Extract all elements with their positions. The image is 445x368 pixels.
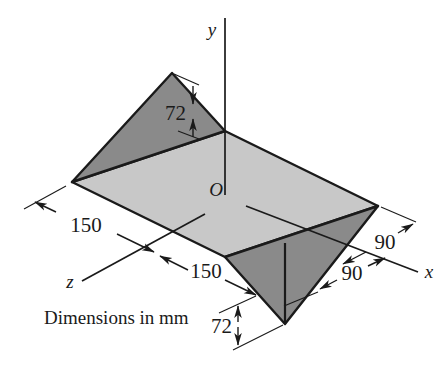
dim-label-90-lower: 90 (342, 261, 363, 285)
dim-90-upper-ext (381, 207, 416, 222)
dim-90-lower-line-b (368, 258, 385, 266)
dim-label-90-upper: 90 (375, 230, 396, 254)
dim-label-72-bottom: 72 (211, 314, 232, 338)
engineering-figure: 72 150 150 90 90 72 y x (0, 0, 445, 368)
dim-150-left-ext (24, 186, 66, 209)
dim-150-left-line-a (35, 202, 56, 212)
origin-label: O (209, 179, 223, 200)
dim-label-72-top: 72 (165, 101, 186, 125)
axis-label-z: z (65, 271, 74, 292)
dim-90-lower-line-a (320, 280, 337, 289)
dim-label-150-right: 150 (190, 259, 222, 283)
dim-label-150-left: 150 (70, 213, 102, 237)
dim-90-upper-line-a (398, 224, 413, 233)
axis-label-y: y (206, 19, 217, 40)
dim-150-right-line-a (160, 256, 188, 270)
figure-caption: Dimensions in mm (44, 307, 189, 328)
dim-72-bottom-ext-lower (233, 325, 283, 350)
figure-canvas: 72 150 150 90 90 72 y x (0, 0, 445, 368)
axis-label-x: x (424, 261, 434, 282)
dim-150-left-line-b (117, 234, 154, 252)
